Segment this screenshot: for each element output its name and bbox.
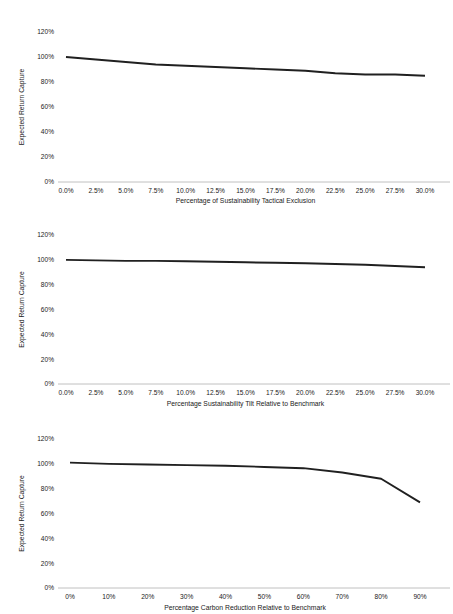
chart-1-x-tick-label: 0.0% — [58, 187, 73, 194]
chart-2-x-tick-label: 30.0% — [416, 389, 435, 396]
chart-3-series-line — [70, 463, 420, 503]
chart-1-x-tick-label: 25.0% — [356, 187, 375, 194]
chart-2-x-tick-label: 5.0% — [118, 389, 133, 396]
chart-3-x-tick-label: 30% — [180, 593, 193, 600]
chart-2-y-tick-label: 0% — [44, 380, 54, 387]
chart-2-x-tick-label: 25.0% — [356, 389, 375, 396]
chart-1-x-tick-label: 2.5% — [88, 187, 103, 194]
chart-2-y-tick-label: 40% — [41, 331, 54, 338]
chart-1-y-tick-label: 120% — [37, 28, 54, 35]
chart-3-x-tick-label: 10% — [102, 593, 115, 600]
figure-page: 0%20%40%60%80%100%120% 0.0%2.5%5.0%7.5%1… — [0, 0, 453, 614]
chart-3-y-tick-label: 80% — [41, 485, 54, 492]
chart-3-y-tick-label: 100% — [37, 460, 54, 467]
chart-1-x-tick-label: 17.5% — [266, 187, 285, 194]
chart-3-x-ticks: 0%10%20%30%40%50%60%70%80%90% — [65, 593, 426, 600]
chart-3-y-tick-label: 60% — [41, 510, 54, 517]
chart-3-y-tick-label: 40% — [41, 535, 54, 542]
chart-2-x-axis-title: Percentage Sustainability Tilt Relative … — [167, 400, 325, 408]
chart-3-svg: 0%20%40%60%80%100%120% 0%10%20%30%40%50%… — [0, 410, 453, 614]
chart-1-x-ticks: 0.0%2.5%5.0%7.5%10.0%12.5%15.0%17.5%20.0… — [58, 187, 434, 194]
chart-1-x-tick-label: 12.5% — [206, 187, 225, 194]
chart-1-y-ticks: 0%20%40%60%80%100%120% — [37, 28, 54, 185]
chart-1-x-tick-label: 5.0% — [118, 187, 133, 194]
chart-1-x-tick-label: 27.5% — [386, 187, 405, 194]
chart-1-x-tick-label: 20.0% — [296, 187, 315, 194]
chart-2-x-tick-label: 27.5% — [386, 389, 405, 396]
chart-2-y-ticks: 0%20%40%60%80%100%120% — [37, 231, 54, 387]
chart-3-x-axis-title: Percentage Carbon Reduction Relative to … — [164, 604, 326, 612]
chart-2-y-tick-label: 120% — [37, 231, 54, 238]
chart-3-y-tick-label: 20% — [41, 560, 54, 567]
chart-3-y-axis-title: Expected Return Capture — [18, 475, 26, 552]
chart-2-y-axis-title: Expected Return Capture — [18, 271, 26, 348]
chart-2-x-tick-label: 10.0% — [176, 389, 195, 396]
chart-1-svg: 0%20%40%60%80%100%120% 0.0%2.5%5.0%7.5%1… — [0, 0, 453, 206]
chart-3-y-ticks: 0%20%40%60%80%100%120% — [37, 435, 54, 591]
chart-2-x-ticks: 0.0%2.5%5.0%7.5%10.0%12.5%15.0%17.5%20.0… — [58, 389, 434, 396]
chart-1-x-tick-label: 22.5% — [326, 187, 345, 194]
chart-1-y-tick-label: 80% — [41, 78, 54, 85]
chart-1-y-tick-label: 0% — [44, 178, 54, 185]
chart-2-series-line — [66, 260, 425, 267]
chart-2-x-tick-label: 15.0% — [236, 389, 255, 396]
chart-1-x-tick-label: 15.0% — [236, 187, 255, 194]
chart-2-y-tick-label: 20% — [41, 356, 54, 363]
chart-2-x-tick-label: 0.0% — [58, 389, 73, 396]
chart-2-x-tick-label: 7.5% — [148, 389, 163, 396]
chart-1-x-tick-label: 10.0% — [176, 187, 195, 194]
chart-2-svg: 0%20%40%60%80%100%120% 0.0%2.5%5.0%7.5%1… — [0, 206, 453, 410]
chart-2-x-tick-label: 2.5% — [88, 389, 103, 396]
chart-3-x-tick-label: 50% — [258, 593, 271, 600]
chart-sustainability-tactical-exclusion: 0%20%40%60%80%100%120% 0.0%2.5%5.0%7.5%1… — [0, 0, 453, 206]
chart-1-y-axis-title: Expected Return Capture — [18, 68, 26, 145]
chart-1-x-axis-title: Percentage of Sustainability Tactical Ex… — [176, 197, 316, 205]
chart-3-x-tick-label: 80% — [375, 593, 388, 600]
chart-1-x-tick-label: 7.5% — [148, 187, 163, 194]
chart-3-y-tick-label: 120% — [37, 435, 54, 442]
chart-2-x-tick-label: 20.0% — [296, 389, 315, 396]
chart-sustainability-tilt: 0%20%40%60%80%100%120% 0.0%2.5%5.0%7.5%1… — [0, 206, 453, 410]
chart-3-x-tick-label: 20% — [141, 593, 154, 600]
chart-3-x-tick-label: 90% — [413, 593, 426, 600]
chart-1-y-tick-label: 20% — [41, 153, 54, 160]
chart-3-y-tick-label: 0% — [44, 584, 54, 591]
chart-1-x-tick-label: 30.0% — [416, 187, 435, 194]
chart-1-series-line — [66, 57, 425, 76]
chart-carbon-reduction: 0%20%40%60%80%100%120% 0%10%20%30%40%50%… — [0, 410, 453, 614]
chart-2-y-tick-label: 100% — [37, 256, 54, 263]
chart-2-x-tick-label: 22.5% — [326, 389, 345, 396]
chart-1-y-tick-label: 40% — [41, 128, 54, 135]
chart-3-x-tick-label: 0% — [65, 593, 75, 600]
chart-3-x-tick-label: 60% — [297, 593, 310, 600]
chart-1-y-tick-label: 60% — [41, 103, 54, 110]
chart-2-x-tick-label: 12.5% — [206, 389, 225, 396]
chart-3-x-tick-label: 40% — [219, 593, 232, 600]
chart-2-y-tick-label: 60% — [41, 306, 54, 313]
chart-2-x-tick-label: 17.5% — [266, 389, 285, 396]
chart-1-y-tick-label: 100% — [37, 53, 54, 60]
chart-2-y-tick-label: 80% — [41, 281, 54, 288]
chart-3-x-tick-label: 70% — [336, 593, 349, 600]
